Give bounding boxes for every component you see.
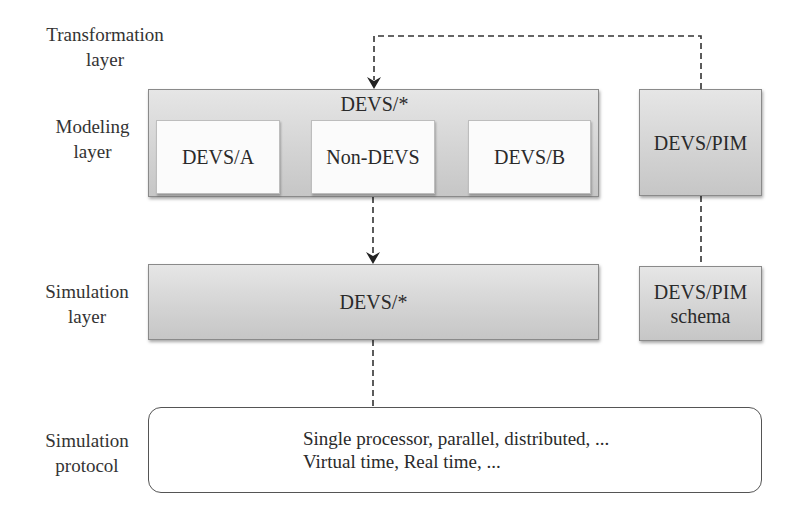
label-line: Simulation (37, 279, 137, 304)
label-line: layer (37, 304, 137, 329)
devs-pim-box: DEVS/PIM (639, 89, 762, 196)
label-line: Modeling (40, 114, 145, 139)
simulation-box-label: DEVS/* (340, 290, 408, 314)
simulation-devs-star-box: DEVS/* (148, 264, 599, 340)
transformation-connector (374, 36, 701, 89)
protocol-line2: Virtual time, Real time, ... (303, 450, 501, 473)
transformation-layer-label: Transformation layer (40, 22, 170, 72)
non-devs-label: Non-DEVS (326, 146, 419, 169)
label-line: Transformation (40, 22, 170, 47)
devs-pim-schema-box: DEVS/PIM schema (639, 266, 762, 341)
non-devs-box: Non-DEVS (311, 120, 435, 194)
modeling-layer-label: Modeling layer (40, 114, 145, 164)
label-line: protocol (37, 453, 137, 478)
simulation-protocol-label: Simulation protocol (37, 428, 137, 478)
devs-a-label: DEVS/A (182, 146, 254, 169)
label-line: Simulation (37, 428, 137, 453)
modeling-box-title: DEVS/* (149, 93, 600, 116)
devs-b-label: DEVS/B (494, 146, 565, 169)
arrowhead-down-icon (366, 252, 380, 264)
devs-a-box: DEVS/A (156, 120, 280, 194)
devs-pim-label: DEVS/PIM (654, 131, 747, 155)
pim-schema-line1: DEVS/PIM (654, 280, 747, 304)
label-line: layer (40, 139, 145, 164)
simulation-layer-label: Simulation layer (37, 279, 137, 329)
label-line: layer (40, 47, 170, 72)
protocol-line1: Single processor, parallel, distributed,… (303, 427, 609, 450)
devs-b-box: DEVS/B (468, 120, 591, 194)
pim-schema-line2: schema (671, 304, 731, 328)
